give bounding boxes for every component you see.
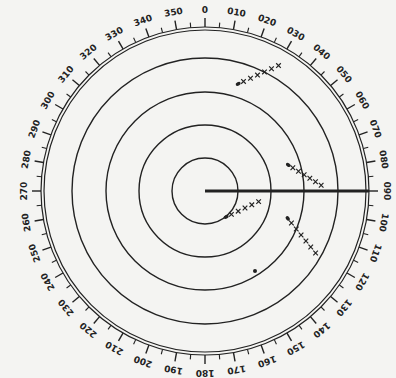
minor-tick: [363, 233, 368, 234]
plot-x-mark: [236, 209, 241, 214]
major-tick: [35, 219, 44, 221]
bearing-label-110: 110: [368, 243, 384, 264]
major-tick: [287, 333, 292, 341]
bearing-label-290: 290: [27, 118, 43, 139]
minor-tick: [85, 71, 89, 75]
contact-4-track: [285, 215, 318, 255]
bearing-label-280: 280: [20, 149, 33, 169]
minor-tick: [42, 233, 47, 234]
bearing-label-120: 120: [353, 271, 371, 292]
major-tick: [347, 273, 355, 278]
bearing-label-080: 080: [377, 149, 390, 169]
bearing-label-260: 260: [20, 212, 33, 232]
minor-tick: [363, 147, 368, 148]
bearing-label-020: 020: [257, 13, 278, 29]
bearing-label-190: 190: [163, 363, 183, 376]
major-tick: [347, 105, 355, 110]
bearing-label-030: 030: [285, 25, 306, 43]
minor-tick: [42, 147, 47, 148]
minor-tick: [321, 71, 325, 75]
major-tick: [94, 317, 100, 324]
minor-tick: [339, 285, 343, 288]
plot-x-mark: [250, 203, 255, 208]
bearing-label-170: 170: [226, 363, 246, 376]
major-tick: [261, 28, 264, 36]
bearing-label-330: 330: [104, 25, 125, 43]
bearing-label-180: 180: [196, 368, 215, 378]
own-ship-marker: [253, 269, 257, 273]
bearing-label-350: 350: [163, 6, 183, 19]
bearing-label-230: 230: [56, 297, 76, 318]
major-tick: [72, 80, 79, 86]
major-tick: [94, 58, 100, 65]
contact-tracks: [223, 63, 323, 255]
bearing-label-0: 0: [202, 5, 208, 15]
bearing-label-340: 340: [132, 13, 153, 29]
plot-x-mark: [269, 66, 274, 71]
minor-tick: [321, 307, 325, 311]
major-tick: [331, 80, 338, 86]
plot-x-mark: [308, 176, 313, 181]
major-tick: [261, 345, 264, 353]
plot-x-mark: [313, 251, 318, 256]
minor-tick: [247, 28, 248, 33]
plot-points: [253, 269, 257, 273]
bearing-label-090: 090: [382, 182, 392, 201]
bearing-label-300: 300: [39, 90, 57, 111]
major-tick: [55, 273, 63, 278]
minor-tick: [52, 120, 57, 122]
plot-x-mark: [248, 76, 253, 81]
plot-x-mark: [319, 183, 324, 188]
minor-tick: [299, 53, 302, 57]
plot-x-mark: [243, 206, 248, 211]
plot-x-mark: [296, 169, 301, 174]
bearing-label-250: 250: [27, 243, 43, 264]
minor-tick: [247, 349, 248, 354]
minor-tick: [299, 325, 302, 329]
plot-x-mark: [308, 245, 313, 250]
bearing-label-310: 310: [56, 64, 76, 85]
major-tick: [359, 247, 367, 250]
bearing-label-010: 010: [226, 6, 246, 19]
major-tick: [233, 353, 235, 362]
bearing-label-320: 320: [78, 42, 99, 62]
plot-x-mark: [241, 79, 246, 84]
contact-2-position-dot: [285, 162, 291, 168]
radar-plot-canvas: 0010020030040050060070080090100110120130…: [0, 0, 396, 378]
minor-tick: [134, 340, 136, 345]
major-tick: [175, 21, 177, 30]
major-tick: [233, 21, 235, 30]
minor-tick: [85, 307, 89, 311]
minor-tick: [161, 28, 162, 33]
bearing-label-060: 060: [353, 90, 371, 111]
major-tick: [146, 345, 149, 353]
plot-x-mark: [304, 239, 309, 244]
major-tick: [367, 219, 376, 221]
bearing-label-160: 160: [257, 354, 278, 370]
minor-tick: [67, 94, 71, 97]
bearing-label-140: 140: [311, 320, 332, 340]
minor-tick: [274, 340, 276, 345]
plot-x-mark: [229, 212, 234, 217]
minor-tick: [354, 120, 359, 122]
plot-x-mark: [256, 199, 261, 204]
major-tick: [310, 58, 316, 65]
major-tick: [55, 105, 63, 110]
minor-tick: [52, 260, 57, 262]
plot-x-mark: [289, 221, 294, 226]
bearing-label-240: 240: [39, 271, 57, 292]
major-tick: [72, 296, 79, 302]
minor-tick: [134, 38, 136, 43]
minor-tick: [108, 325, 111, 329]
major-tick: [42, 132, 50, 135]
contact-1-position-dot: [235, 81, 241, 86]
major-tick: [310, 317, 316, 324]
major-tick: [175, 353, 177, 362]
major-tick: [119, 333, 124, 341]
major-tick: [287, 41, 292, 49]
minor-tick: [67, 285, 71, 288]
minor-tick: [339, 94, 343, 97]
major-tick: [359, 132, 367, 135]
plot-x-mark: [313, 179, 318, 184]
bearing-label-130: 130: [334, 297, 354, 318]
